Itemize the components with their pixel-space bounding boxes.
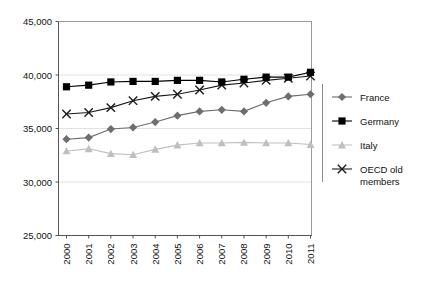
legend-label-italy: Italy [360, 140, 378, 151]
x-axis-tick-label: 2006 [194, 244, 205, 265]
data-point-marker [174, 77, 181, 84]
y-axis-tick-label: 40,000 [23, 70, 52, 81]
legend-label-france: France [360, 92, 390, 103]
data-point-marker [218, 106, 226, 114]
data-point-marker [107, 103, 115, 111]
data-point-marker [173, 112, 181, 120]
data-point-marker [196, 77, 203, 84]
data-point-marker [240, 76, 247, 83]
x-axis-tick-label: 2000 [61, 244, 72, 265]
data-point-marker [151, 118, 159, 126]
legend-label-oecd-old-members-line2: members [360, 176, 400, 187]
x-axis-tick-label: 2003 [128, 244, 139, 265]
y-axis-tick-label: 35,000 [23, 123, 52, 134]
data-point-marker [262, 99, 270, 107]
data-point-marker [107, 78, 114, 85]
x-axis-tick-labels: 2000200120022003200420052006200720082009… [61, 236, 316, 265]
data-point-marker [307, 69, 314, 76]
series-oecd-old-members [62, 72, 314, 118]
y-axis-tick-label: 30,000 [23, 177, 52, 188]
data-point-marker [63, 83, 70, 90]
data-point-marker [284, 92, 292, 100]
legend-label-germany: Germany [360, 116, 399, 127]
data-point-marker [338, 93, 346, 101]
data-point-marker [285, 74, 292, 81]
data-point-marker [107, 125, 115, 133]
x-axis-tick-label: 2005 [172, 244, 183, 265]
y-axis-tick-label: 45,000 [23, 16, 52, 27]
data-point-marker [240, 107, 248, 115]
x-axis-tick-label: 2004 [150, 244, 161, 265]
series-italy [63, 138, 315, 158]
data-point-marker [85, 82, 92, 89]
x-axis-tick-label: 2007 [216, 244, 227, 265]
data-point-marker [85, 145, 93, 152]
y-axis-tick-labels: 45,00040,00035,00030,00025,000 [23, 16, 59, 241]
x-axis-tick-label: 2010 [283, 244, 294, 265]
data-point-marker [129, 96, 137, 104]
line-chart: 45,00040,00035,00030,00025,000 200020012… [0, 0, 422, 287]
data-point-marker [129, 78, 136, 85]
series-line [67, 94, 311, 139]
gridlines [59, 75, 312, 182]
x-axis-tick-label: 2009 [261, 244, 272, 265]
data-point-marker [129, 123, 137, 131]
x-axis-tick-label: 2011 [305, 244, 316, 264]
data-point-marker [195, 86, 203, 94]
x-axis-tick-label: 2008 [238, 244, 249, 265]
data-series-layer [62, 69, 314, 158]
data-point-marker [338, 117, 345, 124]
legend-label-oecd-old-members: OECD old [360, 164, 403, 175]
series-line [67, 76, 311, 114]
series-france [62, 90, 314, 143]
data-point-marker [218, 78, 225, 85]
y-axis-tick-label: 25,000 [23, 230, 52, 241]
data-point-marker [152, 78, 159, 85]
data-point-marker [263, 74, 270, 81]
data-point-marker [62, 135, 70, 143]
data-point-marker [306, 90, 314, 98]
chart-legend: FranceGermanyItalyOECD oldmembers [332, 92, 403, 187]
x-axis-tick-label: 2002 [105, 244, 116, 265]
chart-container: 45,00040,00035,00030,00025,000 200020012… [0, 0, 422, 287]
data-point-marker [195, 107, 203, 115]
series-line [67, 142, 311, 154]
x-axis-tick-label: 2001 [83, 244, 94, 265]
data-point-marker [85, 133, 93, 141]
